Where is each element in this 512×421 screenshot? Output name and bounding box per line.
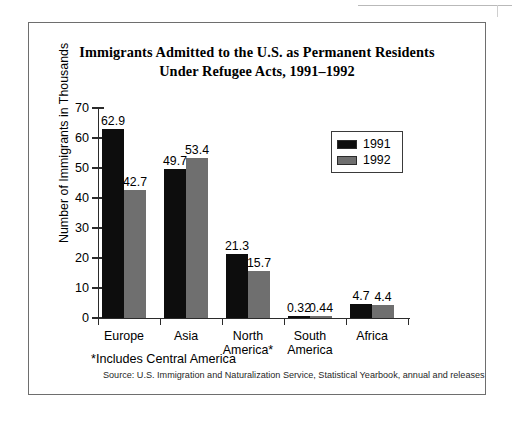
bar-1992-africa <box>372 305 394 318</box>
footnote-includes-central-america: *Includes Central America <box>91 353 236 366</box>
bar-value-1991-europe: 62.9 <box>93 115 133 127</box>
bar-1992-north-america- <box>248 271 270 318</box>
x-cat-label-africa: Africa <box>332 329 412 343</box>
legend-swatch-1992 <box>337 156 357 165</box>
plot-area: Number of Immigrants in Thousands 010203… <box>29 23 487 396</box>
legend-label-1992: 1992 <box>363 154 391 166</box>
x-cat-label-line: Africa <box>332 329 412 343</box>
x-tick-0 <box>98 318 99 325</box>
source-note: Source: U.S. Immigration and Naturalizat… <box>103 371 485 380</box>
bar-1991-africa <box>350 304 372 318</box>
x-tick-end <box>408 318 409 325</box>
bar-value-1992-europe: 42.7 <box>115 176 155 188</box>
legend-item-1992: 1992 <box>337 152 402 168</box>
bar-value-1992-south-america: 0.44 <box>301 302 341 314</box>
bar-value-1992-north-america-: 15.7 <box>239 257 279 269</box>
x-tick-2 <box>222 318 223 325</box>
x-tick-4 <box>346 318 347 325</box>
bar-1991-asia <box>164 169 186 318</box>
scan-artifact-edge <box>497 5 498 17</box>
chart-figure-frame: Immigrants Admitted to the U.S. as Perma… <box>28 22 486 395</box>
x-tick-3 <box>284 318 285 325</box>
chart-legend: 1991 1992 <box>331 131 403 173</box>
x-axis-line <box>98 318 410 319</box>
legend-item-1991: 1991 <box>337 136 402 152</box>
bar-value-1992-asia: 53.4 <box>177 144 217 156</box>
bar-value-1992-africa: 4.4 <box>363 291 403 303</box>
bar-1992-south-america <box>310 316 332 319</box>
scan-artifact-line <box>358 5 512 6</box>
bars-layer <box>29 23 487 318</box>
bar-1992-asia <box>186 158 208 318</box>
bar-value-1991-north-america-: 21.3 <box>217 240 257 252</box>
bar-1991-south-america <box>288 316 310 319</box>
bar-1992-europe <box>124 190 146 318</box>
legend-label-1991: 1991 <box>363 138 391 150</box>
x-cat-label-line: America <box>270 343 350 357</box>
x-tick-1 <box>160 318 161 325</box>
bar-1991-europe <box>102 129 124 318</box>
legend-swatch-1991 <box>337 140 357 149</box>
